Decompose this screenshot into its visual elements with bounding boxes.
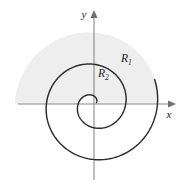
x-axis-arrowhead xyxy=(168,101,176,108)
x-axis-label: x xyxy=(166,108,172,120)
spiral-figure: x y R1 R2 xyxy=(0,0,188,184)
shaded-regions xyxy=(15,32,158,104)
region-label-r1-letter: R xyxy=(120,52,128,64)
region-label-r2-subscript: 2 xyxy=(105,73,109,82)
region-label-r2-letter: R xyxy=(97,67,105,79)
region-label-r1-subscript: 1 xyxy=(128,58,132,67)
y-axis-label: y xyxy=(81,8,87,20)
figure-canvas: x y R1 R2 xyxy=(0,0,188,184)
y-axis-arrowhead xyxy=(91,10,98,18)
